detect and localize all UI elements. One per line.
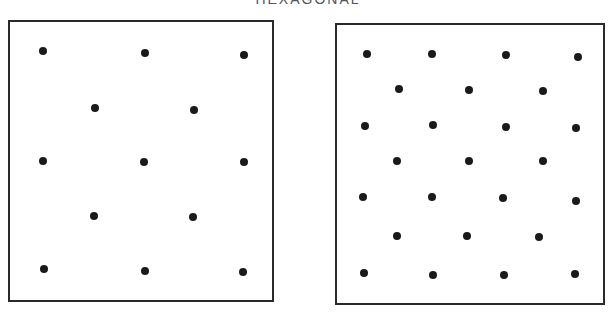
lattice-dot [393, 157, 401, 165]
lattice-dot [141, 267, 149, 275]
lattice-dot [428, 50, 436, 58]
lattice-dot [539, 157, 547, 165]
lattice-dot [90, 212, 98, 220]
lattice-dot [502, 51, 510, 59]
lattice-dot [190, 106, 198, 114]
lattice-dot [91, 104, 99, 112]
figure-title: HEXAGONAL [0, 0, 616, 7]
lattice-dot [363, 50, 371, 58]
lattice-dot [141, 49, 149, 57]
lattice-dot [395, 85, 403, 93]
lattice-dot [429, 121, 437, 129]
lattice-dot [465, 86, 473, 94]
lattice-dot [499, 194, 507, 202]
lattice-dot [571, 270, 579, 278]
lattice-dot [239, 268, 247, 276]
lattice-dot [465, 157, 473, 165]
lattice-dot [574, 53, 582, 61]
lattice-dot [140, 158, 148, 166]
lattice-dot [189, 213, 197, 221]
lattice-dot [240, 158, 248, 166]
lattice-dot [359, 193, 367, 201]
lattice-dot [429, 271, 437, 279]
lattice-dot [393, 232, 401, 240]
lattice-dot [39, 47, 47, 55]
lattice-dot [361, 122, 369, 130]
lattice-dot [428, 193, 436, 201]
lattice-dot [502, 123, 510, 131]
lattice-dot [463, 232, 471, 240]
lattice-dot [572, 197, 580, 205]
lattice-dot [539, 87, 547, 95]
lattice-dot [39, 157, 47, 165]
lattice-dot [40, 265, 48, 273]
lattice-dot [360, 269, 368, 277]
lattice-dot [572, 124, 580, 132]
lattice-dot [500, 271, 508, 279]
lattice-dot [240, 51, 248, 59]
lattice-dot [535, 233, 543, 241]
